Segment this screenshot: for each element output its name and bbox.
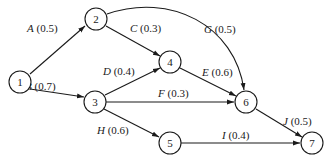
node-3: 3 [84,91,106,113]
svg-text:6: 6 [243,96,249,108]
node-4: 4 [159,51,181,73]
edge-label-I: I (0.4) [221,129,250,142]
edge-label-C: C (0.3) [130,22,162,35]
node-2: 2 [85,8,107,30]
svg-text:4: 4 [167,56,173,68]
edge-label-D: D (0.4) [102,65,135,78]
edge-label-J: J (0.5) [283,115,312,128]
svg-text:3: 3 [92,96,98,108]
edge-label-G: G (0.5) [204,23,236,36]
edge-label-E: E (0.6) [201,66,233,79]
node-7: 7 [301,132,323,154]
edge-label-H: H (0.6) [96,124,129,137]
svg-text:7: 7 [309,137,315,149]
network-diagram: A (0.5) B (0.7) C (0.3) D (0.4) E (0.6) … [0,0,330,162]
edges [30,7,302,143]
svg-text:2: 2 [93,13,99,25]
edge-labels: A (0.5) B (0.7) C (0.3) D (0.4) E (0.6) … [25,22,312,142]
node-1: 1 [9,71,31,93]
node-6: 6 [235,91,257,113]
node-5: 5 [159,132,181,154]
edge-label-A: A (0.5) [26,22,58,35]
svg-text:1: 1 [17,76,23,88]
svg-text:5: 5 [167,137,173,149]
edge-label-F: F (0.3) [157,87,189,100]
